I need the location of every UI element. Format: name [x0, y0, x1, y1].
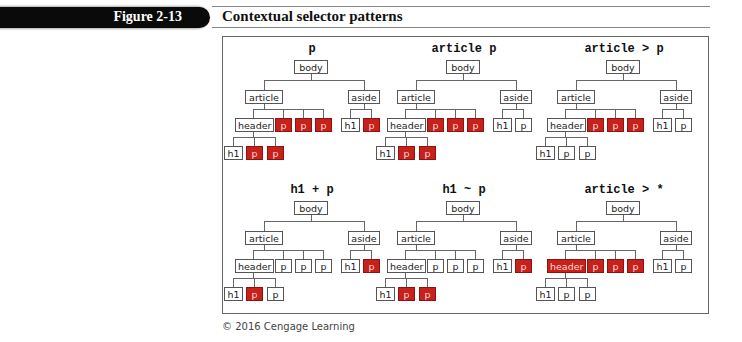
tree-connector: [416, 80, 417, 90]
tree-node-header-p1: p: [246, 146, 263, 160]
tree-connector: [576, 221, 677, 222]
tree-connector: [253, 109, 324, 110]
tree-connector: [283, 250, 284, 259]
tree-connector: [364, 221, 365, 231]
tree-node-aside: aside: [500, 231, 532, 245]
tree-connector: [350, 250, 351, 259]
tree-node-aside-h1: h1: [653, 118, 672, 132]
tree-node-body: body: [606, 60, 640, 74]
tree-node-header-h1: h1: [376, 287, 395, 301]
tree-connector: [615, 109, 616, 118]
tree-connector: [475, 109, 476, 118]
tree-connector: [615, 250, 616, 259]
tree-connector: [264, 80, 365, 81]
tree-node-article-p2: p: [607, 118, 624, 132]
tree-node-article-p1: p: [427, 259, 444, 273]
tree-connector: [427, 137, 428, 146]
tree-connector: [565, 250, 636, 251]
tree-connector: [364, 80, 365, 90]
tree-connector: [595, 109, 596, 118]
tree-connector: [283, 109, 284, 118]
tree-node-body: body: [294, 201, 328, 215]
tree-connector: [371, 109, 372, 118]
tree-connector: [275, 137, 276, 146]
tree-node-article: article: [397, 231, 435, 245]
tree-connector: [303, 109, 304, 118]
tree-node-header-p1: p: [398, 287, 415, 301]
tree-connector: [566, 278, 567, 287]
tree-connector: [516, 221, 517, 231]
tree-connector: [264, 80, 265, 90]
figure-label-tab: Figure 2-13: [0, 7, 210, 28]
tree-node-header-p1: p: [246, 287, 263, 301]
tree-connector: [350, 109, 372, 110]
tree-connector: [371, 250, 372, 259]
selector-panel: article > pbodyarticleasideheaderppph1ph…: [544, 42, 704, 170]
tree-connector: [385, 137, 386, 146]
tree-connector: [416, 221, 517, 222]
tree-node-header-p2: p: [419, 146, 436, 160]
tree-node-article-p3: p: [467, 118, 484, 132]
tree-connector: [475, 250, 476, 259]
tree-connector: [323, 250, 324, 259]
figure-number: Figure 2-13: [113, 9, 182, 25]
tree-connector: [275, 278, 276, 287]
tree-connector: [253, 250, 254, 259]
tree-node-body: body: [446, 60, 480, 74]
tree-node-aside-p: p: [675, 259, 692, 273]
tree-connector: [264, 221, 265, 231]
tree-connector: [566, 137, 567, 146]
tree-connector: [576, 80, 677, 81]
tree-connector: [662, 250, 663, 259]
tree-node-header-p2: p: [579, 146, 596, 160]
tree-connector: [253, 109, 254, 118]
tree-node-body: body: [294, 60, 328, 74]
tree-connector: [254, 278, 255, 287]
tree-node-header-h1: h1: [536, 287, 555, 301]
tree-connector: [350, 109, 351, 118]
selector-label: p: [232, 42, 392, 56]
tree-connector: [435, 109, 436, 118]
tree-connector: [233, 278, 234, 287]
tree-connector: [303, 250, 304, 259]
tree-connector: [502, 109, 503, 118]
selector-label: article > *: [544, 183, 704, 197]
tree-connector: [576, 80, 577, 90]
tree-node-aside: aside: [348, 231, 380, 245]
tree-connector: [233, 137, 234, 146]
tree-connector: [516, 80, 517, 90]
selector-panel: h1 ~ pbodyarticleasideheaderppph1ph1pp: [384, 183, 544, 311]
tree-connector: [254, 137, 255, 146]
tree-connector: [565, 109, 566, 118]
selector-panel: article > *bodyarticleasideheaderppph1ph…: [544, 183, 704, 311]
selector-label: h1 ~ p: [384, 183, 544, 197]
tree-node-article-p3: p: [467, 259, 484, 273]
tree-node-aside: aside: [348, 90, 380, 104]
tree-node-aside-p: p: [363, 118, 380, 132]
selector-label: h1 + p: [232, 183, 392, 197]
tree-node-header-h1: h1: [224, 287, 243, 301]
tree-node-header-p2: p: [267, 287, 284, 301]
figure-header: Figure 2-13 Contextual selector patterns: [0, 0, 742, 36]
tree-node-article-header: header: [547, 259, 586, 273]
tree-node-article-p1: p: [587, 118, 604, 132]
tree-connector: [576, 221, 577, 231]
tree-connector: [676, 221, 677, 231]
tree-connector: [565, 250, 566, 259]
tree-connector: [587, 278, 588, 287]
tree-node-aside-p: p: [515, 118, 532, 132]
tree-connector: [545, 278, 546, 287]
tree-connector: [264, 221, 365, 222]
tree-node-body: body: [606, 201, 640, 215]
tree-node-article-p3: p: [627, 118, 644, 132]
tree-node-article-header: header: [547, 118, 586, 132]
tree-connector: [405, 109, 406, 118]
header-rule-top: [212, 6, 710, 7]
tree-node-header-p2: p: [419, 287, 436, 301]
tree-node-article-p3: p: [315, 118, 332, 132]
tree-node-article-p2: p: [447, 118, 464, 132]
tree-node-aside-p: p: [363, 259, 380, 273]
tree-connector: [435, 250, 436, 259]
tree-connector: [253, 250, 324, 251]
tree-node-header-p2: p: [267, 146, 284, 160]
